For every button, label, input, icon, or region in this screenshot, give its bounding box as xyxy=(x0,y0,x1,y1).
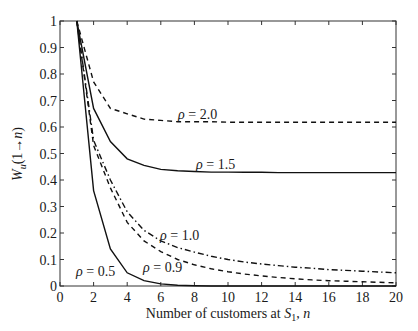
y-tick-label: 0.6 xyxy=(40,120,58,135)
x-tick-label: 20 xyxy=(389,290,403,305)
x-tick-label: 8 xyxy=(191,290,198,305)
series-label: ρ = 2.0 xyxy=(177,107,217,122)
x-tick-label: 10 xyxy=(221,290,235,305)
x-tick-label: 14 xyxy=(288,290,302,305)
series-label: ρ = 0.9 xyxy=(142,260,182,275)
y-tick-label: 1 xyxy=(50,14,57,29)
y-tick-label: 0.3 xyxy=(40,200,58,215)
x-tick-label: 16 xyxy=(322,290,336,305)
x-tick-label: 4 xyxy=(124,290,131,305)
x-tick-label: 18 xyxy=(355,290,369,305)
line-chart: 0246810121416182000.10.20.30.40.50.60.70… xyxy=(0,0,418,331)
y-axis-label: Wu(1→n) xyxy=(10,127,28,181)
series-line-3 xyxy=(77,21,396,283)
series-label: ρ = 0.5 xyxy=(75,264,115,279)
series-group xyxy=(77,21,396,286)
x-tick-label: 0 xyxy=(57,290,64,305)
series-label: ρ = 1.0 xyxy=(159,228,199,243)
plot-frame xyxy=(60,21,396,286)
y-tick-label: 0.5 xyxy=(40,147,58,162)
y-tick-label: 0 xyxy=(50,279,57,294)
y-tick-label: 0.1 xyxy=(40,253,58,268)
y-tick-label: 0.9 xyxy=(40,41,58,56)
y-tick-label: 0.7 xyxy=(40,94,58,109)
y-tick-label: 0.4 xyxy=(40,173,58,188)
x-tick-label: 12 xyxy=(255,290,269,305)
x-axis-label: Number of customers at S1, n xyxy=(146,306,310,323)
series-line-2 xyxy=(77,21,396,273)
series-line-0 xyxy=(77,21,396,122)
y-tick-label: 0.8 xyxy=(40,67,58,82)
series-line-4 xyxy=(77,21,396,286)
x-tick-label: 6 xyxy=(157,290,164,305)
series-label: ρ = 1.5 xyxy=(195,157,235,172)
series-labels: ρ = 2.0ρ = 1.5ρ = 1.0ρ = 0.9ρ = 0.5 xyxy=(75,107,235,279)
x-tick-label: 2 xyxy=(90,290,97,305)
series-line-1 xyxy=(77,21,396,173)
y-tick-label: 0.2 xyxy=(40,226,58,241)
